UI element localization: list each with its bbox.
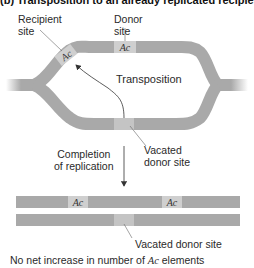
footer-prefix: No net increase in number of [10,254,148,266]
diagram-canvas: Ac Ac Ac Ac [0,0,254,268]
product-1-ac-label-2: Ac [166,197,178,208]
vacated-donor-bottom-pointer [124,224,132,238]
vacated-donor-site-label-line2: donor site [144,156,190,168]
completion-label: Completion of replication [54,148,114,172]
recipient-site-label-line2: site [18,25,62,37]
donor-ac-label: Ac [119,42,131,53]
vacated-donor-site-label: Vacated donor site [144,144,190,168]
vacated-donor-site-label-line1: Vacated [144,144,190,156]
vacated-donor-site-bottom-label: Vacated donor site [135,238,222,250]
transposition-label: Transposition [116,73,182,85]
donor-site-label-line1: Donor [114,13,143,25]
diagram: (b) Transposition to an already replicat… [0,0,254,268]
completion-label-line2: of replication [54,160,114,172]
footer-suffix: elements [159,254,205,266]
recipient-site-label: Recipient site [18,13,62,37]
completion-label-line1: Completion [54,148,114,160]
donor-site-label-line2: site [114,25,143,37]
recipient-site-label-line1: Recipient [18,13,62,25]
vacated-donor-box [114,118,134,130]
footer-element: Ac [148,255,159,266]
product-dna-1 [16,196,240,208]
dna-stem-left [6,79,36,91]
footer-caption: No net increase in number of Ac elements [10,254,204,267]
donor-site-label: Donor site [114,13,143,37]
product-1-ac-label-1: Ac [72,197,84,208]
